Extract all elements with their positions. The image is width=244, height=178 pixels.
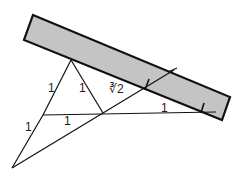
label-apex-mid: 1: [79, 81, 86, 95]
label-ruler-segment: 1: [161, 101, 168, 115]
label-apex-left: 1: [48, 81, 55, 95]
label-horizontal: 1: [64, 114, 71, 128]
label-left-lower: 1: [25, 120, 32, 134]
ruler: [24, 15, 230, 120]
label-cube-root-2: ∛2: [109, 82, 124, 96]
diagram-canvas: 1 1 ∛2 1 1 1: [0, 0, 244, 178]
